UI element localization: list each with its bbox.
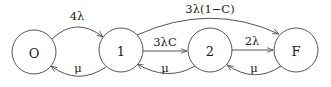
edge-F-to-2: μ	[227, 61, 281, 75]
edge-O-to-1: 4λ	[52, 9, 103, 39]
node-O: O	[12, 30, 56, 74]
node-1: 1	[99, 28, 143, 72]
edge-label-1-to-O: μ	[74, 61, 82, 75]
node-2: 2	[188, 28, 232, 72]
edge-1-to-2: 3λC	[143, 35, 187, 51]
node-label-2: 2	[206, 44, 214, 59]
node-F: F	[274, 28, 318, 72]
edge-label-F-to-2: μ	[250, 61, 258, 75]
edge-2-to-F: 2λ	[232, 34, 273, 50]
edge-1-to-O: μ	[51, 61, 106, 76]
edge-label-O-to-1: 4λ	[70, 9, 85, 23]
edge-label-2-to-F: 2λ	[245, 34, 260, 48]
markov-chain-diagram: 4λ μ 3λC μ 2λ μ 3λ(1−C) O 1 2 F	[0, 0, 331, 87]
edge-label-1-to-2: 3λC	[153, 35, 177, 49]
edge-2-to-1: μ	[137, 61, 195, 75]
node-label-1: 1	[117, 44, 125, 59]
node-label-F: F	[291, 44, 300, 59]
node-label-O: O	[29, 46, 40, 61]
edge-label-2-to-1: μ	[161, 61, 169, 75]
edge-label-1-to-F: 3λ(1−C)	[185, 2, 234, 16]
